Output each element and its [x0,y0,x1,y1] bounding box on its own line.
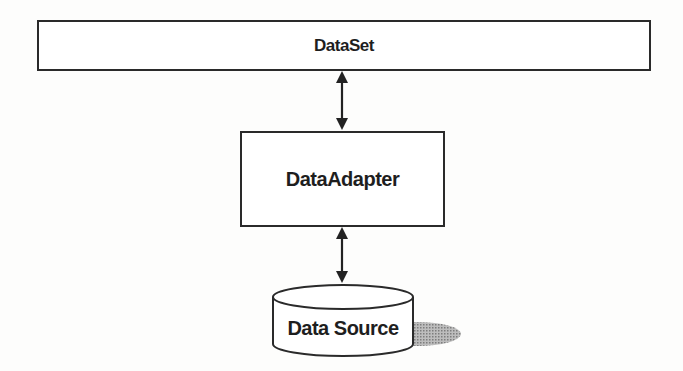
data-source-label: Data Source [272,308,414,348]
dataset-box: DataSet [37,20,651,71]
arrow-adapter-source [336,227,348,283]
dataset-label: DataSet [314,36,374,56]
arrow-dataset-adapter [336,71,348,130]
dataadapter-label: DataAdapter [286,168,399,191]
dataadapter-box: DataAdapter [240,131,445,227]
